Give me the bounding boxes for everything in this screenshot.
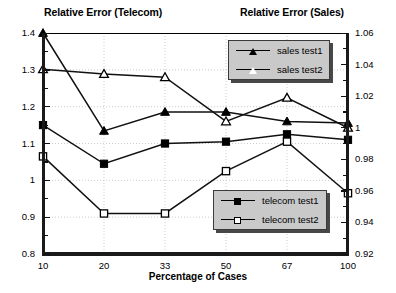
left-tick-label: 1.3 [0, 64, 35, 75]
right-tick-mark [343, 80, 347, 81]
right-tick-mark [343, 143, 347, 144]
legend-item-telecom-test2: telecom test2 [214, 210, 326, 229]
triangle-filled-icon [236, 45, 270, 57]
left-tick-mark [44, 88, 48, 89]
square-open-icon [221, 214, 255, 226]
legend-sales: sales test1 sales test2 [228, 40, 330, 80]
bottom-axis-rail [42, 252, 349, 256]
right-tick-label: 1.02 [355, 90, 374, 101]
right-tick-label: 1.06 [355, 27, 374, 38]
left-tick-mark [44, 51, 48, 52]
left-tick-label: 1.4 [0, 27, 35, 38]
left-tick-label: 1.2 [0, 101, 35, 112]
left-tick-label: 0.9 [0, 211, 35, 222]
right-tick-mark [343, 238, 347, 239]
right-tick-label: 1.04 [355, 59, 374, 70]
legend-item-sales-test1: sales test1 [229, 41, 329, 60]
right-tick-mark [341, 33, 347, 34]
triangle-open-icon [236, 64, 270, 76]
left-tick-mark [44, 180, 50, 181]
x-tick-label: 67 [267, 260, 307, 271]
legend-telecom: telecom test1 telecom test2 [213, 190, 327, 230]
right-tick-mark [341, 222, 347, 223]
right-tick-mark [341, 190, 347, 191]
left-tick-mark [44, 235, 48, 236]
legend-label-sales-test1: sales test1 [277, 45, 322, 56]
right-tick-label: 0.94 [355, 216, 374, 227]
left-tick-label: 1.1 [0, 138, 35, 149]
legend-item-telecom-test1: telecom test1 [214, 191, 326, 210]
legend-label-sales-test2: sales test2 [277, 64, 322, 75]
left-tick-mark [44, 143, 50, 144]
x-axis-label: Percentage of Cases [0, 271, 396, 282]
left-tick-mark [44, 33, 50, 34]
right-tick-label: 0.98 [355, 153, 374, 164]
right-tick-mark [341, 64, 347, 65]
legend-label-telecom-test1: telecom test1 [262, 195, 319, 206]
left-tick-mark [44, 106, 50, 107]
legend-item-sales-test2: sales test2 [229, 60, 329, 79]
left-tick-mark [44, 254, 50, 255]
right-tick-mark [341, 127, 347, 128]
left-tick-label: 0.8 [0, 248, 35, 259]
right-tick-label: 0.96 [355, 185, 374, 196]
x-tick-label: 50 [206, 260, 246, 271]
right-tick-mark [343, 175, 347, 176]
left-tick-label: 1 [0, 174, 35, 185]
left-tick-mark [44, 69, 50, 70]
right-axis-title: Relative Error (Sales) [240, 6, 344, 18]
x-tick-label: 33 [145, 260, 185, 271]
right-tick-mark [341, 96, 347, 97]
x-tick-label: 100 [328, 260, 368, 271]
left-axis-title: Relative Error (Telecom) [44, 6, 162, 18]
square-filled-icon [221, 195, 255, 207]
chart-figure: Relative Error (Telecom) Relative Error … [0, 0, 396, 293]
left-tick-mark [44, 125, 48, 126]
right-tick-label: 0.92 [355, 248, 374, 259]
left-tick-mark [44, 161, 48, 162]
x-tick-label: 10 [23, 260, 63, 271]
right-tick-mark [343, 111, 347, 112]
right-tick-mark [343, 206, 347, 207]
right-tick-label: 1 [355, 122, 360, 133]
x-tick-label: 20 [84, 260, 124, 271]
right-tick-mark [341, 254, 347, 255]
right-tick-mark [343, 48, 347, 49]
left-tick-mark [44, 198, 48, 199]
left-tick-mark [44, 217, 50, 218]
right-tick-mark [341, 159, 347, 160]
legend-label-telecom-test2: telecom test2 [262, 214, 319, 225]
